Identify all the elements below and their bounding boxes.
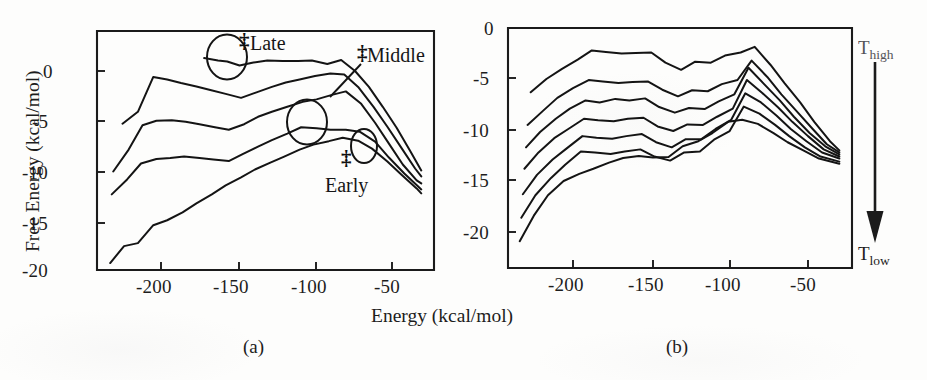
panel-a-xtick-m200: -200 xyxy=(136,276,172,298)
panel-b-ytick-0: 0 xyxy=(484,18,494,40)
panel-b-ytick-m15: -15 xyxy=(463,170,489,192)
panel-b-xtick-m150: -150 xyxy=(628,274,664,296)
temperature-low-subscript: low xyxy=(870,253,890,268)
y-axis-title: Free Energy (kcal/mol) xyxy=(22,70,44,252)
temperature-low-symbol: T xyxy=(858,243,870,264)
early-annotation-label: Early xyxy=(325,174,368,197)
panel-b-xtick-m200: -200 xyxy=(548,274,584,296)
panel-a-ytick-m20: -20 xyxy=(22,260,48,282)
temperature-high-label: Thigh xyxy=(858,37,894,63)
x-axis-title: Energy (kcal/mol) xyxy=(371,305,513,327)
panel-a-caption: (a) xyxy=(243,336,264,358)
temperature-high-subscript: high xyxy=(870,47,894,62)
figure-container: 0 -5 -10 -15 -20 -200 -150 -100 -50 0 -5… xyxy=(0,0,927,380)
panel-b-xtick-m50: -50 xyxy=(790,274,816,296)
panel-b-caption: (b) xyxy=(666,336,688,358)
panel-a-xtick-m150: -150 xyxy=(213,276,249,298)
panel-b-ytick-m10: -10 xyxy=(463,120,489,142)
temperature-high-symbol: T xyxy=(858,37,870,58)
panel-b-ytick-m20: -20 xyxy=(463,222,489,244)
panel-b-ytick-m5: -5 xyxy=(473,68,489,90)
early-dagger-symbol: ‡ xyxy=(341,148,352,169)
temperature-low-label: Tlow xyxy=(858,243,890,269)
middle-dagger-symbol: ‡ xyxy=(357,43,368,64)
late-dagger-symbol: ‡ xyxy=(239,31,250,52)
middle-annotation-label: Middle xyxy=(367,44,425,67)
panel-a-xtick-m100: -100 xyxy=(291,276,327,298)
late-annotation-label: Late xyxy=(250,32,286,55)
panel-a-xtick-m50: -50 xyxy=(374,276,400,298)
panel-a-ytick-0: 0 xyxy=(43,61,53,83)
temperature-arrow-head xyxy=(867,211,884,243)
panel-b-xtick-m100: -100 xyxy=(705,274,741,296)
